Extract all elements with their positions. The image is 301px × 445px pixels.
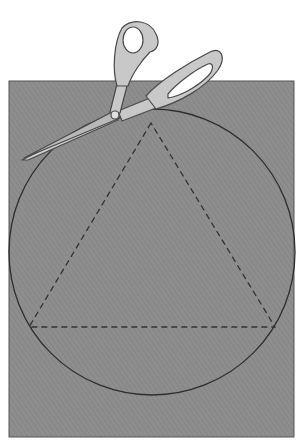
paper-sheet [9,81,294,437]
pivot-screw [111,111,119,119]
diagram-canvas [0,0,301,445]
